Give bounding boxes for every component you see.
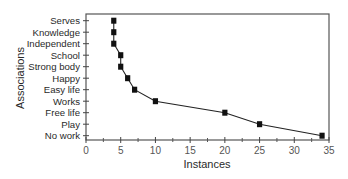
data-point-marker <box>125 75 130 81</box>
x-tick-label: 20 <box>219 145 231 156</box>
y-tick-label: Easy life <box>44 84 80 95</box>
y-tick-label: Independent <box>27 38 81 49</box>
x-tick-label: 25 <box>254 145 266 156</box>
data-point-marker <box>319 133 324 139</box>
x-tick-label: 10 <box>150 145 162 156</box>
plot-frame <box>86 14 329 140</box>
data-point-marker <box>222 110 227 116</box>
y-tick-label: Happy <box>52 73 80 84</box>
data-point-marker <box>132 87 137 93</box>
data-point-marker <box>118 52 123 58</box>
data-point-marker <box>257 121 262 127</box>
y-tick-label: Strong body <box>28 61 80 72</box>
y-tick-label: Serves <box>50 15 80 26</box>
y-tick-label: Knowledge <box>33 27 80 38</box>
data-point-marker <box>111 18 116 24</box>
y-tick-label: Play <box>61 119 80 130</box>
y-tick-label: Works <box>53 96 80 107</box>
y-tick-label: School <box>51 50 80 61</box>
y-axis-title: Associations <box>14 47 26 109</box>
y-tick-label: No work <box>45 130 80 141</box>
x-tick-label: 35 <box>323 145 335 156</box>
chart: ServesKnowledgeIndependentSchoolStrong b… <box>0 0 348 179</box>
data-series <box>111 18 324 139</box>
x-tick-label: 0 <box>83 145 89 156</box>
y-tick-label: Free life <box>45 107 80 118</box>
x-axis-title: Instances <box>183 158 231 170</box>
x-tick-label: 5 <box>118 145 124 156</box>
data-point-marker <box>111 41 116 47</box>
data-point-marker <box>153 98 158 104</box>
data-point-marker <box>118 64 123 70</box>
x-tick-label: 30 <box>289 145 301 156</box>
x-tick-label: 15 <box>185 145 197 156</box>
y-axis: ServesKnowledgeIndependentSchoolStrong b… <box>27 15 89 141</box>
data-point-marker <box>111 29 116 35</box>
